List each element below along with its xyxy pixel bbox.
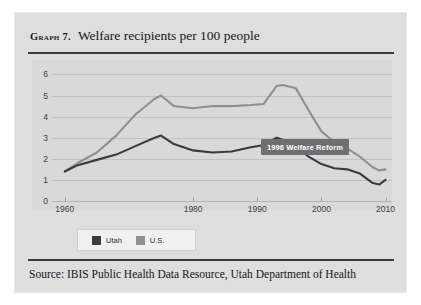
title-divider <box>28 52 394 54</box>
chart-legend: UtahU.S. <box>78 230 195 250</box>
legend-label: U.S. <box>150 236 165 245</box>
chart-plot-area: 0123456 19601980199020002010 1996 Welfar… <box>32 60 392 210</box>
source-caption: Source: IBIS Public Health Data Resource… <box>29 268 393 280</box>
footer-divider <box>28 259 394 261</box>
line-series-us <box>65 85 386 171</box>
legend-item: Utah <box>92 236 122 245</box>
legend-swatch-icon <box>136 236 145 245</box>
legend-label: Utah <box>106 236 122 245</box>
annotation-label: 1996 Welfare Reform <box>267 143 343 152</box>
chart-series-group <box>32 60 392 210</box>
annotation-callout: 1996 Welfare Reform <box>261 139 349 155</box>
legend-item: U.S. <box>136 236 165 245</box>
figure-title-row: Graph 7.Welfare recipients per 100 peopl… <box>30 26 391 48</box>
page-title: Welfare recipients per 100 people <box>78 28 260 43</box>
legend-swatch-icon <box>92 236 101 245</box>
graph-number-label: Graph 7. <box>30 31 71 42</box>
figure-panel: Graph 7.Welfare recipients per 100 peopl… <box>14 12 407 293</box>
